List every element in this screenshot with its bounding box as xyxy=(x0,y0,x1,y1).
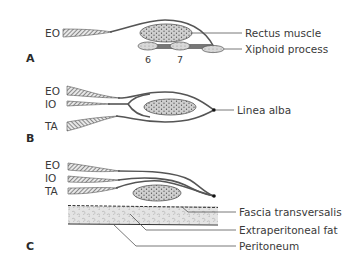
xiphoid-process xyxy=(202,45,224,52)
rib-6-label: 6 xyxy=(145,54,151,65)
eo-label-c: EO xyxy=(45,159,60,171)
linea-alba-label: Linea alba xyxy=(237,104,291,116)
panel-c: C EO IO TA Fascia transversalis Extraper… xyxy=(26,159,342,253)
rib-7 xyxy=(170,42,190,50)
panel-a: A EO 6 7 Rectus muscle Xiphoid process xyxy=(26,20,328,65)
eo-label-b: EO xyxy=(45,85,60,97)
fascia-transversalis-label: Fascia transversalis xyxy=(239,206,342,218)
peritoneum-label: Peritoneum xyxy=(239,240,299,252)
panel-label-a: A xyxy=(26,52,35,65)
panel-label-c: C xyxy=(26,240,34,253)
io-label-c: IO xyxy=(45,172,56,184)
abdominal-wall-diagram: A EO 6 7 Rectus muscle Xiphoid process B… xyxy=(0,0,347,265)
peritoneum-line xyxy=(68,224,218,225)
rectus-muscle-label: Rectus muscle xyxy=(245,27,321,39)
ta-label-c: TA xyxy=(44,185,59,197)
rib-6 xyxy=(138,42,158,50)
rib-7-label: 7 xyxy=(177,54,183,65)
leader-peritoneum xyxy=(113,224,236,246)
xiphoid-process-label: Xiphoid process xyxy=(245,43,328,55)
extraperitoneal-fat-layer xyxy=(68,206,218,224)
rectus-muscle-a xyxy=(140,24,192,42)
eo-label-a: EO xyxy=(45,27,60,39)
rectus-muscle-c xyxy=(133,185,181,201)
ta-label-b: TA xyxy=(44,120,59,132)
panel-b: B EO IO TA Linea alba xyxy=(26,85,291,145)
external-oblique-muscle-a xyxy=(63,29,112,37)
io-label-b: IO xyxy=(45,98,56,110)
transversus-abdominis-muscle-b xyxy=(67,116,118,131)
transversus-abdominis-muscle-c xyxy=(68,188,118,194)
panel-label-b: B xyxy=(26,132,34,145)
external-oblique-muscle-b xyxy=(67,86,120,98)
extraperitoneal-fat-label: Extraperitoneal fat xyxy=(239,224,338,236)
linea-alba-point xyxy=(212,108,216,112)
internal-oblique-muscle-b xyxy=(67,101,110,106)
rectus-muscle-b xyxy=(144,99,196,115)
external-oblique-muscle-c xyxy=(68,163,120,172)
internal-oblique-muscle-c xyxy=(68,176,120,182)
linea-alba-point-c xyxy=(212,194,216,198)
